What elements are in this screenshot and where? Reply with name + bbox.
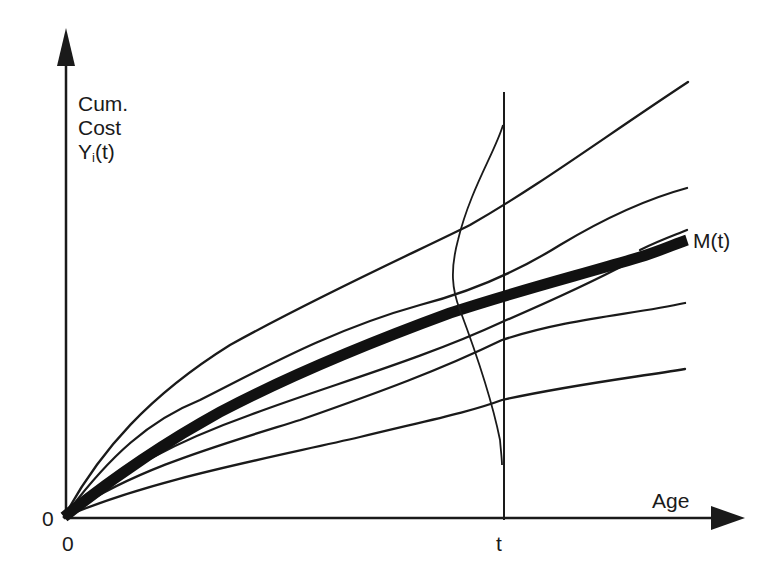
y-title-line1: Cum. <box>78 92 128 116</box>
y-title-line3: Yi(t) <box>78 140 128 164</box>
trajectory-y3 <box>64 262 630 517</box>
y-title-line2: Cost <box>78 116 128 140</box>
y-title-arg: (t) <box>95 140 115 163</box>
y-axis-title: Cum. Cost Yi(t) <box>78 92 128 164</box>
x-origin-label: 0 <box>62 533 74 554</box>
y-axis-arrow-icon <box>57 28 75 66</box>
x-axis-title: Age <box>652 490 689 511</box>
y-title-symbol: Y <box>78 140 92 163</box>
trajectory-y5 <box>64 369 685 517</box>
t-tick-label: t <box>496 533 502 554</box>
mean-label: M(t) <box>693 230 730 251</box>
x-axis-arrow-icon <box>711 506 745 530</box>
y-origin-label: 0 <box>42 508 54 529</box>
